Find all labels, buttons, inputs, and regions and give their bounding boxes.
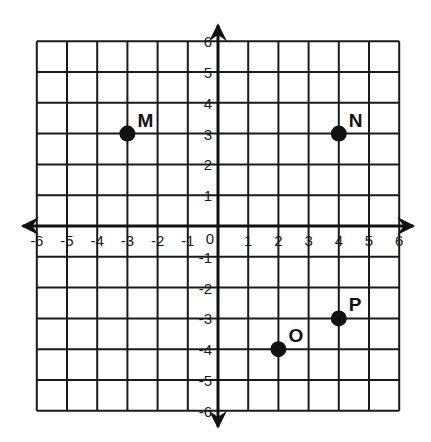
y-tick-label: 5 [204, 64, 212, 81]
y-tick-label: 2 [204, 156, 212, 173]
x-tick-label: 3 [304, 232, 312, 249]
x-tick-label: -5 [60, 232, 73, 249]
x-tick-label: 6 [395, 232, 403, 249]
y-tick-label: 4 [204, 95, 212, 112]
y-tick-label: -2 [199, 280, 212, 297]
point-label: O [288, 325, 303, 346]
point-m: M [119, 110, 153, 142]
y-tick-label: 3 [204, 126, 212, 143]
point-label: P [349, 294, 362, 315]
x-tick-label: -2 [151, 232, 164, 249]
point-marker [270, 341, 286, 357]
y-tick-label: -5 [199, 372, 212, 389]
y-tick-label: -4 [199, 341, 212, 358]
point-marker [119, 126, 135, 142]
x-tick-label: -4 [91, 232, 104, 249]
point-o: O [270, 325, 303, 357]
axes [21, 23, 415, 429]
point-marker [331, 126, 347, 142]
grid-quadrant-3 [37, 226, 218, 411]
x-tick-label: -1 [181, 232, 194, 249]
x-tick-label: 5 [365, 232, 373, 249]
point-marker [331, 310, 347, 326]
point-label: N [349, 110, 363, 131]
y-tick-label: -6 [199, 403, 212, 420]
x-tick-label: 4 [335, 232, 343, 249]
y-tick-label: 1 [204, 187, 212, 204]
x-tick-label: 2 [274, 232, 282, 249]
y-tick-label: -3 [199, 310, 212, 327]
coordinate-plane: -6-5-4-3-2-1123456-6-5-4-3-2-11234560 MN… [0, 0, 431, 442]
x-tick-label: -3 [121, 232, 134, 249]
x-tick-label: 1 [244, 232, 252, 249]
y-tick-label: -1 [199, 249, 212, 266]
point-label: M [137, 110, 153, 131]
point-n: N [331, 110, 363, 142]
point-p: P [331, 294, 362, 326]
x-tick-label: -6 [30, 232, 43, 249]
grid-quadrant-4 [218, 226, 399, 411]
origin-label: 0 [206, 230, 214, 247]
grid-quadrant-2 [218, 41, 399, 226]
y-tick-label: 6 [204, 33, 212, 50]
